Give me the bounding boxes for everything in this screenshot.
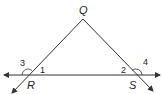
angle-4-label: 4 <box>143 57 148 67</box>
angle-2-label: 2 <box>121 65 126 75</box>
point-s-label: S <box>129 79 137 91</box>
line-qr <box>12 19 83 93</box>
angle-3-label: 3 <box>20 58 25 68</box>
angle-1-label: 1 <box>40 65 45 75</box>
point-r-label: R <box>27 79 35 91</box>
line-qs <box>83 19 153 91</box>
triangle-diagram: Q R S 1 2 3 4 <box>0 0 163 94</box>
point-q-label: Q <box>79 4 88 16</box>
